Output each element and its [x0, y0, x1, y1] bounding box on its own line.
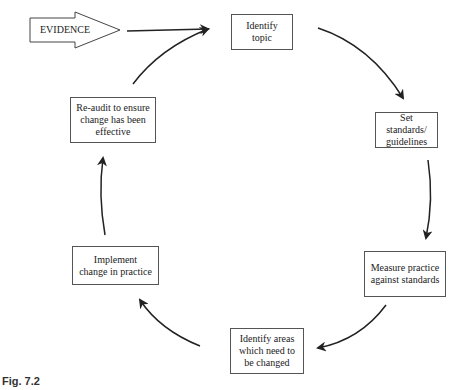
arrow-reaudit-to-topic: [133, 29, 208, 84]
arrow-areas-to-implement: [140, 300, 200, 346]
figure-caption: Fig. 7.2: [2, 375, 40, 387]
arrow-implement-to-reaudit: [101, 158, 105, 235]
arrow-standards-to-measure: [426, 160, 431, 238]
step-set-standards: Set standards/ guidelines: [375, 112, 438, 148]
evidence-label: EVIDENCE: [40, 24, 90, 35]
step-identify-topic: Identify topic: [231, 14, 293, 50]
step-re-audit: Re-audit to ensure change has been effec…: [70, 97, 156, 143]
step-measure-practice: Measure practice against standards: [364, 251, 446, 297]
arrow-measure-to-areas: [318, 305, 386, 348]
step-identify-areas: Identify areas which need to be changed: [230, 328, 304, 374]
step-implement-change: Implement change in practice: [72, 246, 159, 285]
arrow-topic-to-standards: [318, 28, 403, 98]
arrow-evidence-to-topic: [127, 29, 208, 31]
cycle-arrows: [0, 0, 458, 390]
